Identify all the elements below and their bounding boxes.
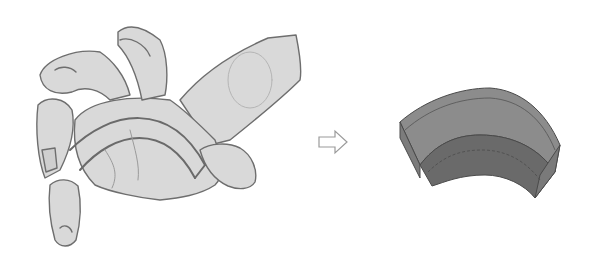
- hand-sketch: [37, 27, 301, 246]
- curved-block-3d: [400, 88, 560, 198]
- right-arrow-icon: [319, 131, 347, 153]
- illustration-canvas: [0, 0, 594, 265]
